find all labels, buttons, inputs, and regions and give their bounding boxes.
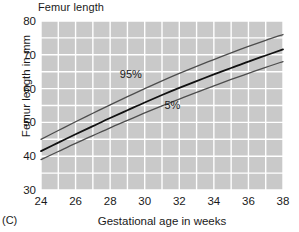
x-tick-label: 34 <box>207 195 220 207</box>
x-tick-label: 26 <box>69 195 82 207</box>
x-axis-tick-labels: 2426283032343638 <box>35 195 290 207</box>
curve-annotation-5pct: 5% <box>164 99 180 111</box>
femur-length-chart-figure: Femur length 95%5% 304050607080 24262830… <box>0 0 299 232</box>
x-tick-label: 36 <box>242 195 255 207</box>
x-tick-label: 24 <box>35 195 48 207</box>
chart-plot-area: 95%5% 304050607080 2426283032343638 <box>0 0 299 232</box>
x-tick-label: 32 <box>173 195 186 207</box>
y-axis-title: Femur length in mm <box>20 16 32 156</box>
curve-annotation-95pct: 95% <box>120 68 142 80</box>
x-tick-label: 38 <box>277 195 290 207</box>
panel-label: (C) <box>2 214 17 226</box>
x-tick-label: 30 <box>138 195 151 207</box>
x-axis-title: Gestational age in weeks <box>41 215 283 227</box>
x-tick-label: 28 <box>104 195 117 207</box>
